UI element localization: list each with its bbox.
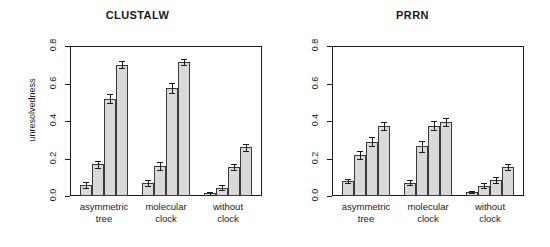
y-tick-label-0.6: 0.6 (48, 71, 58, 95)
error-bar-line (98, 161, 99, 168)
bar (440, 122, 452, 196)
error-bar-cap-lower (107, 103, 113, 104)
y-tick-0.8 (65, 46, 70, 47)
error-bar-cap-lower (231, 170, 237, 171)
error-bar-cap-lower (119, 68, 125, 69)
error-bar-cap-upper (419, 141, 425, 142)
bar (354, 155, 366, 196)
y-tick-0 (65, 196, 70, 197)
x-group-label-line2: clock (454, 213, 526, 225)
bar (92, 164, 104, 196)
bar (428, 126, 440, 196)
error-bar-cap-upper (381, 122, 387, 123)
error-bar-cap-upper (407, 180, 413, 181)
error-bar-cap-lower (181, 65, 187, 66)
y-tick-label-0.2: 0.2 (48, 146, 58, 170)
error-bar-cap-lower (481, 188, 487, 189)
y-tick-label-0.0: 0.0 (310, 183, 320, 207)
error-bar-cap-lower (407, 185, 413, 186)
error-bar-cap-upper (119, 61, 125, 62)
error-bar-cap-lower (419, 152, 425, 153)
bar (240, 147, 252, 196)
error-bar-line (234, 164, 235, 171)
y-tick-label-0.4: 0.4 (48, 108, 58, 132)
error-bar-cap-lower (357, 159, 363, 160)
error-bar-line (172, 83, 173, 94)
error-bar-cap-upper (181, 59, 187, 60)
x-group-label: withoutclock (192, 201, 264, 225)
x-group-label-line1: asymmetric (342, 201, 391, 212)
error-bar-cap-upper (357, 151, 363, 152)
error-bar-cap-upper (469, 191, 475, 192)
error-bar-cap-upper (219, 185, 225, 186)
y-tick-label-0.0: 0.0 (48, 183, 58, 207)
bar (378, 126, 390, 196)
error-bar-cap-upper (231, 164, 237, 165)
error-bar-cap-upper (169, 83, 175, 84)
y-tick-0 (327, 196, 332, 197)
bar (178, 62, 190, 196)
error-bar-line (372, 137, 373, 146)
error-bar-cap-lower (493, 183, 499, 184)
error-bar-cap-lower (243, 151, 249, 152)
error-bar-line (110, 94, 111, 103)
panel-title-prrn: PRRN (275, 9, 550, 21)
error-bar-cap-lower (431, 130, 437, 131)
y-tick-0.6 (65, 84, 70, 85)
error-bar-line (246, 144, 247, 152)
error-bar-line (446, 118, 447, 126)
bar (416, 146, 428, 196)
error-bar-line (508, 164, 509, 171)
error-bar-cap-upper (145, 180, 151, 181)
y-tick-label-0.8: 0.8 (310, 33, 320, 57)
error-bar-line (384, 122, 385, 130)
error-bar-cap-upper (83, 182, 89, 183)
x-group-label-line1: molecular (145, 201, 186, 212)
error-bar-line (160, 162, 161, 170)
error-bar-line (360, 151, 361, 159)
error-bar-cap-lower (345, 183, 351, 184)
y-tick-0.6 (327, 84, 332, 85)
error-bar-cap-lower (83, 188, 89, 189)
y-tick-0.4 (327, 121, 332, 122)
error-bar-cap-upper (207, 192, 213, 193)
error-bar-cap-upper (369, 137, 375, 138)
error-bar-cap-upper (157, 162, 163, 163)
error-bar-cap-upper (493, 177, 499, 178)
y-tick-label-0.4: 0.4 (310, 108, 320, 132)
error-bar-cap-lower (219, 190, 225, 191)
bar (116, 65, 128, 196)
x-group-label: withoutclock (454, 201, 526, 225)
figure-root: CLUSTALW unresolvedness PRRN 0.00.20.40.… (0, 0, 550, 247)
bar (366, 142, 378, 196)
error-bar-cap-upper (107, 94, 113, 95)
x-group-label-line2: clock (192, 213, 264, 225)
y-tick-label-0.8: 0.8 (48, 33, 58, 57)
x-group-label-line1: molecular (407, 201, 448, 212)
error-bar-line (434, 121, 435, 130)
error-bar-line (184, 59, 185, 66)
error-bar-line (422, 141, 423, 152)
y-axis-label-clustalw: unresolvedness (27, 65, 37, 155)
error-bar-cap-lower (95, 168, 101, 169)
x-group-label-line1: asymmetric (80, 201, 129, 212)
panel-title-clustalw: CLUSTALW (0, 9, 275, 21)
error-bar-cap-lower (381, 130, 387, 131)
error-bar-cap-upper (443, 118, 449, 119)
error-bar-cap-lower (369, 146, 375, 147)
error-bar-cap-lower (505, 170, 511, 171)
bar (104, 99, 116, 197)
error-bar-cap-upper (95, 161, 101, 162)
error-bar-cap-lower (145, 186, 151, 187)
x-group-label-line1: without (213, 201, 243, 212)
y-tick-0.8 (327, 46, 332, 47)
error-bar-cap-upper (481, 183, 487, 184)
y-tick-0.2 (65, 159, 70, 160)
error-bar-cap-lower (169, 93, 175, 94)
error-bar-cap-lower (469, 193, 475, 194)
error-bar-cap-lower (157, 170, 163, 171)
error-bar-cap-upper (505, 164, 511, 165)
error-bar-cap-upper (345, 179, 351, 180)
y-tick-label-0.2: 0.2 (310, 146, 320, 170)
error-bar-cap-lower (443, 126, 449, 127)
